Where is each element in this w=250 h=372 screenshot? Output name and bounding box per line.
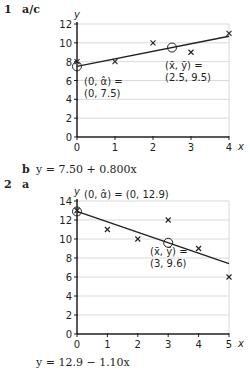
point-annotation: (0, α̂) = [84, 76, 123, 87]
x-tick-label: 1 [112, 142, 118, 153]
data-point-x-marker [189, 50, 194, 55]
y-tick-label: 12 [59, 215, 72, 226]
y-tick-label: 12 [59, 19, 72, 30]
y-tick-label: 8 [66, 57, 72, 68]
y-tick-label: 10 [59, 38, 72, 49]
data-point-x-marker [105, 227, 110, 232]
point-annotation: (3, 9.6) [150, 258, 187, 269]
point-annotation: (x̄, ȳ) = [165, 60, 203, 71]
y-tick-label: 10 [59, 234, 72, 245]
data-point-x-marker [196, 246, 201, 251]
y-tick-label: 6 [66, 272, 72, 283]
point-annotation: (0, α̂) = (0, 12.9) [84, 189, 169, 200]
point-annotation: (x̄, ȳ) = [150, 246, 188, 257]
point-annotation: (2.5, 9.5) [165, 72, 211, 83]
y-tick-label: 0 [66, 329, 72, 340]
x-tick-label: 1 [104, 339, 110, 350]
x-tick-label: 0 [74, 339, 80, 350]
chart-1: 02468101201234xy(0, α̂) =(0, 7.5)(x̄, ȳ)… [0, 0, 250, 160]
x-tick-label: 4 [195, 339, 201, 350]
x-tick-label: 4 [226, 142, 232, 153]
chart-plot: 02468101214012345xy(0, α̂) = (0, 12.9)(x… [59, 186, 244, 350]
x-axis-label: x [237, 141, 244, 152]
y-tick-label: 4 [66, 291, 72, 302]
x-tick-label: 3 [188, 142, 194, 153]
y-tick-label: 14 [59, 196, 72, 207]
y-tick-label: 8 [66, 253, 72, 264]
chart-2: 02468101214012345xy(0, α̂) = (0, 12.9)(x… [0, 175, 250, 355]
y-tick-label: 2 [66, 113, 72, 124]
x-tick-label: 3 [165, 339, 171, 350]
point-annotation: (0, 7.5) [84, 88, 121, 99]
x-tick-label: 2 [135, 339, 141, 350]
question-2-equation: y = 12.9 − 1.10x [36, 356, 130, 369]
x-tick-label: 0 [74, 142, 80, 153]
y-tick-label: 6 [66, 76, 72, 87]
y-axis-label: y [73, 9, 81, 20]
y-tick-label: 2 [66, 310, 72, 321]
chart-plot: 02468101201234xy(0, α̂) =(0, 7.5)(x̄, ȳ)… [59, 9, 244, 153]
y-tick-label: 4 [66, 94, 72, 105]
y-axis-label: y [73, 186, 81, 197]
x-tick-label: 2 [150, 142, 156, 153]
x-axis-label: x [237, 338, 244, 349]
x-tick-label: 5 [226, 339, 232, 350]
y-tick-label: 0 [66, 132, 72, 143]
